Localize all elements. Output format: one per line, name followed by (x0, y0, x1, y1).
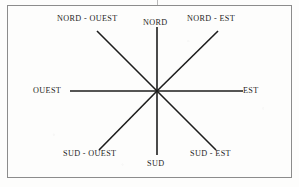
page-canvas: NORD NORD - OUEST NORD - EST OUEST EST S… (0, 0, 299, 187)
direction-label-southwest: SUD - OUEST (63, 150, 116, 158)
direction-label-northeast: NORD - EST (187, 15, 235, 23)
direction-label-north: NORD (143, 19, 168, 27)
direction-label-south: SUD (147, 160, 164, 168)
axis-line-southeast (157, 91, 216, 150)
direction-label-northwest: NORD - OUEST (57, 15, 118, 23)
direction-label-east: EST (243, 87, 259, 95)
axis-line-northeast (157, 31, 218, 91)
axis-line-northwest (97, 31, 157, 91)
axis-line-southwest (99, 91, 157, 150)
direction-label-west: OUEST (33, 87, 61, 95)
direction-label-southeast: SUD - EST (190, 150, 231, 158)
